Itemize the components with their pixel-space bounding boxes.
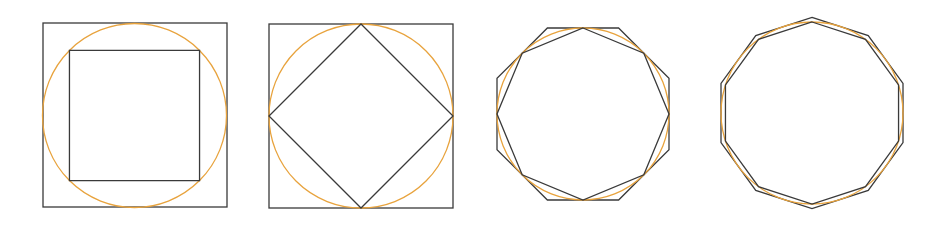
panel-circle-decagons [700, 0, 935, 227]
reference-circle [269, 24, 453, 208]
panel-4-canvas [700, 0, 935, 227]
panel-2-canvas [245, 0, 475, 227]
inscribed-polygon-4 [69, 50, 199, 180]
panel-3-shapes [497, 28, 669, 200]
panel-3-canvas [475, 0, 700, 227]
reference-circle [497, 28, 669, 200]
panel-1-canvas [0, 0, 245, 227]
inscribed-polygon-8 [497, 28, 669, 200]
circumscribed-square [269, 24, 453, 208]
panel-circle-square-aligned [245, 0, 475, 227]
circumscribed-polygon-8 [497, 28, 669, 200]
figure-root [0, 0, 935, 227]
inscribed-polygon-10 [725, 22, 898, 204]
panel-4-shapes [721, 17, 903, 208]
inscribed-polygon-4 [269, 24, 453, 208]
panel-circle-octagons [475, 0, 700, 227]
panel-1-shapes [43, 23, 228, 208]
circumscribed-polygon-10 [721, 17, 903, 208]
panel-2-shapes [269, 24, 453, 208]
reference-circle [721, 22, 903, 204]
panel-circle-square-rotated [0, 0, 245, 227]
